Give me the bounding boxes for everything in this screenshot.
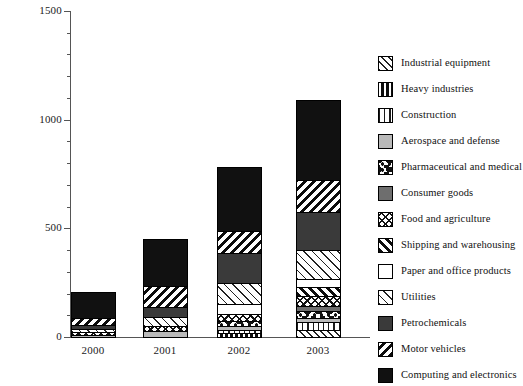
y-tick-minor bbox=[67, 250, 70, 251]
legend-item-5[interactable]: Consumer goods bbox=[378, 184, 523, 210]
legend-item-6[interactable]: Food and agriculture bbox=[378, 210, 523, 236]
legend-swatch-icon bbox=[378, 212, 393, 227]
y-tick-major bbox=[64, 120, 70, 121]
legend-label: Heavy industries bbox=[401, 81, 473, 97]
bar-segment[interactable] bbox=[143, 239, 188, 287]
legend-label: Consumer goods bbox=[401, 185, 473, 201]
legend-label: Aerospace and defense bbox=[401, 133, 500, 149]
chart-legend: Industrial equipmentHeavy industriesCons… bbox=[378, 54, 523, 386]
legend-swatch-icon bbox=[378, 82, 393, 97]
legend-label: Industrial equipment bbox=[401, 55, 490, 71]
legend-label: Utilities bbox=[401, 289, 436, 305]
legend-item-9[interactable]: Utilities bbox=[378, 288, 523, 314]
legend-item-2[interactable]: Construction bbox=[378, 106, 523, 132]
bar-segment[interactable] bbox=[296, 250, 341, 280]
y-tick-major bbox=[64, 228, 70, 229]
bar-segment[interactable] bbox=[143, 331, 188, 338]
y-tick-label: 500 bbox=[20, 222, 62, 233]
legend-swatch-icon bbox=[378, 186, 393, 201]
legend-item-8[interactable]: Paper and office products bbox=[378, 262, 523, 288]
y-tick-minor bbox=[67, 33, 70, 34]
legend-item-0[interactable]: Industrial equipment bbox=[378, 54, 523, 80]
bar-segment[interactable] bbox=[296, 212, 341, 251]
legend-item-10[interactable]: Petrochemicals bbox=[378, 314, 523, 340]
legend-swatch-icon bbox=[378, 316, 393, 331]
y-tick-minor bbox=[67, 76, 70, 77]
legend-item-1[interactable]: Heavy industries bbox=[378, 80, 523, 106]
y-tick-major bbox=[64, 337, 70, 338]
y-axis-line bbox=[70, 11, 71, 338]
x-tick-label-2001: 2001 bbox=[135, 344, 195, 356]
y-tick-minor bbox=[67, 185, 70, 186]
bar-2000[interactable] bbox=[71, 292, 116, 337]
y-tick-minor bbox=[67, 163, 70, 164]
y-tick-label: 1000 bbox=[20, 114, 62, 125]
legend-swatch-icon bbox=[378, 342, 393, 357]
bar-segment[interactable] bbox=[71, 335, 116, 338]
legend-label: Food and agriculture bbox=[401, 211, 490, 227]
legend-label: Motor vehicles bbox=[401, 341, 466, 357]
legend-swatch-icon bbox=[378, 238, 393, 253]
y-tick-major bbox=[64, 11, 70, 12]
y-tick-minor bbox=[67, 315, 70, 316]
legend-label: Computing and electronics bbox=[401, 367, 517, 383]
bar-segment[interactable] bbox=[71, 292, 116, 319]
bar-2002[interactable] bbox=[217, 167, 262, 337]
bar-segment[interactable] bbox=[217, 167, 262, 232]
legend-swatch-icon bbox=[378, 56, 393, 71]
legend-label: Petrochemicals bbox=[401, 315, 467, 331]
legend-item-4[interactable]: Pharmaceutical and medical bbox=[378, 158, 523, 184]
x-tick-label-2003: 2003 bbox=[288, 344, 348, 356]
legend-swatch-icon bbox=[378, 160, 393, 175]
legend-swatch-icon bbox=[378, 134, 393, 149]
bar-2003[interactable] bbox=[296, 100, 341, 337]
legend-swatch-icon bbox=[378, 264, 393, 279]
bar-segment[interactable] bbox=[217, 333, 262, 338]
legend-label: Shipping and warehousing bbox=[401, 237, 515, 253]
legend-label: Paper and office products bbox=[401, 263, 511, 279]
legend-item-11[interactable]: Motor vehicles bbox=[378, 340, 523, 366]
x-tick-label-2000: 2000 bbox=[63, 344, 123, 356]
stacked-bar-chart: 050010001500 2000200120022003 Industrial… bbox=[0, 0, 523, 386]
legend-item-7[interactable]: Shipping and warehousing bbox=[378, 236, 523, 262]
bar-segment[interactable] bbox=[143, 286, 188, 308]
y-tick-minor bbox=[67, 294, 70, 295]
bar-2001[interactable] bbox=[143, 239, 188, 337]
x-tick-label-2002: 2002 bbox=[209, 344, 269, 356]
y-tick-minor bbox=[67, 54, 70, 55]
y-tick-minor bbox=[67, 207, 70, 208]
legend-label: Pharmaceutical and medical bbox=[401, 159, 522, 175]
bar-segment[interactable] bbox=[296, 330, 341, 338]
y-tick-label: 1500 bbox=[20, 5, 62, 16]
y-tick-minor bbox=[67, 272, 70, 273]
legend-swatch-icon bbox=[378, 108, 393, 123]
bar-segment[interactable] bbox=[296, 100, 341, 182]
bar-segment[interactable] bbox=[217, 283, 262, 305]
y-tick-minor bbox=[67, 141, 70, 142]
legend-swatch-icon bbox=[378, 290, 393, 305]
legend-item-12[interactable]: Computing and electronics bbox=[378, 366, 523, 386]
y-tick-minor bbox=[67, 98, 70, 99]
legend-swatch-icon bbox=[378, 368, 393, 383]
bar-segment[interactable] bbox=[296, 180, 341, 213]
legend-label: Construction bbox=[401, 107, 456, 123]
y-tick-label: 0 bbox=[20, 331, 62, 342]
bar-segment[interactable] bbox=[217, 231, 262, 254]
bar-segment[interactable] bbox=[217, 253, 262, 284]
legend-item-3[interactable]: Aerospace and defense bbox=[378, 132, 523, 158]
